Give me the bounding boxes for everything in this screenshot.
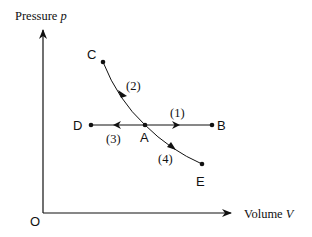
pv-diagram: Pressure p Volume V O C A B D E (1) (2) … <box>0 0 312 237</box>
label-c: C <box>87 47 96 62</box>
label-d: D <box>73 118 82 133</box>
point-d <box>89 123 94 128</box>
origin-label: O <box>30 214 40 229</box>
point-c <box>101 60 106 65</box>
diagram-svg: Pressure p Volume V O C A B D E (1) (2) … <box>0 0 312 237</box>
label-process-1: (1) <box>170 106 185 120</box>
arrow-process-4 <box>167 142 176 150</box>
point-e <box>200 162 205 167</box>
x-axis-label: Volume V <box>244 207 295 221</box>
y-axis-label: Pressure p <box>15 9 67 23</box>
label-process-3: (3) <box>106 132 121 146</box>
label-process-4: (4) <box>158 152 173 166</box>
label-a: A <box>140 130 149 145</box>
label-b: B <box>217 118 226 133</box>
label-process-2: (2) <box>126 79 141 93</box>
curve-c-e <box>103 62 202 164</box>
label-e: E <box>196 174 205 189</box>
point-b <box>210 123 215 128</box>
point-a <box>143 123 148 128</box>
